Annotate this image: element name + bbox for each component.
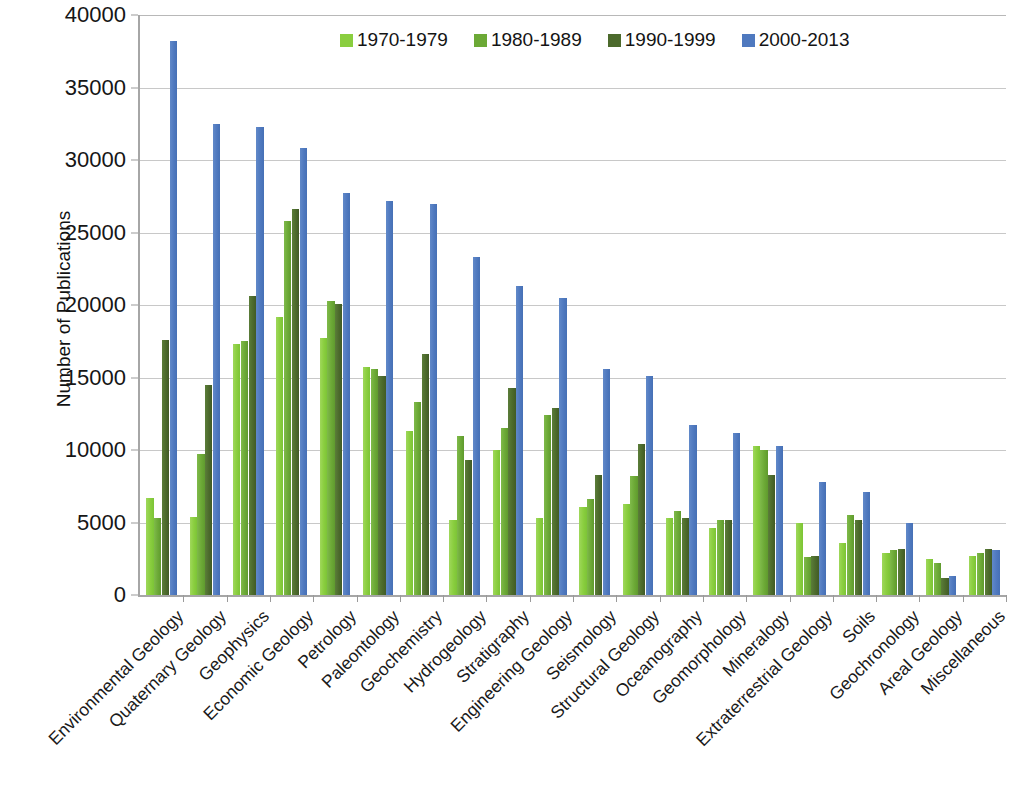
- bar[interactable]: [170, 41, 177, 595]
- bar[interactable]: [249, 296, 256, 595]
- bar[interactable]: [689, 425, 696, 595]
- bar[interactable]: [623, 504, 630, 595]
- bar[interactable]: [776, 446, 783, 595]
- bar[interactable]: [406, 431, 413, 595]
- bar[interactable]: [926, 559, 933, 595]
- bar[interactable]: [709, 528, 716, 595]
- bar[interactable]: [804, 557, 811, 595]
- legend-item[interactable]: 1970-1979: [340, 29, 448, 51]
- bar[interactable]: [544, 415, 551, 595]
- bar[interactable]: [847, 515, 854, 595]
- bar[interactable]: [733, 433, 740, 595]
- bar[interactable]: [213, 124, 220, 595]
- bar-group: [790, 15, 833, 595]
- bar[interactable]: [320, 338, 327, 595]
- bar[interactable]: [457, 436, 464, 596]
- legend-label: 2000-2013: [759, 29, 850, 51]
- bar[interactable]: [284, 221, 291, 595]
- legend-swatch-icon: [742, 34, 755, 47]
- bar[interactable]: [753, 446, 760, 595]
- bar[interactable]: [327, 301, 334, 595]
- bar-group: [530, 15, 573, 595]
- y-axis-tick-label: 25000: [65, 220, 126, 246]
- bar[interactable]: [595, 475, 602, 595]
- bar[interactable]: [985, 549, 992, 595]
- bar[interactable]: [256, 127, 263, 595]
- x-axis-category-labels: Environmental GeologyQuaternary GeologyG…: [138, 600, 1011, 786]
- bar[interactable]: [501, 428, 508, 595]
- bar[interactable]: [768, 475, 775, 595]
- bar[interactable]: [233, 344, 240, 595]
- bar-groups: [140, 15, 1006, 595]
- bar[interactable]: [796, 523, 803, 596]
- bar[interactable]: [674, 511, 681, 595]
- bar[interactable]: [552, 408, 559, 595]
- legend-item[interactable]: 1980-1989: [474, 29, 582, 51]
- legend-swatch-icon: [340, 34, 353, 47]
- bar[interactable]: [430, 204, 437, 596]
- bar[interactable]: [363, 367, 370, 595]
- bar[interactable]: [760, 450, 767, 595]
- bar[interactable]: [969, 556, 976, 595]
- bar[interactable]: [638, 444, 645, 595]
- bar[interactable]: [190, 517, 197, 595]
- bar[interactable]: [508, 388, 515, 595]
- bar[interactable]: [335, 304, 342, 595]
- bar-group: [616, 15, 659, 595]
- bar[interactable]: [839, 543, 846, 595]
- bar[interactable]: [949, 576, 956, 595]
- bar[interactable]: [855, 520, 862, 595]
- bar[interactable]: [559, 298, 566, 595]
- bar[interactable]: [154, 518, 161, 595]
- bar[interactable]: [603, 369, 610, 595]
- bar[interactable]: [725, 520, 732, 595]
- bar[interactable]: [906, 523, 913, 596]
- bar[interactable]: [241, 341, 248, 595]
- y-axis-tick-label: 40000: [65, 2, 126, 28]
- bar[interactable]: [276, 317, 283, 595]
- bar[interactable]: [422, 354, 429, 595]
- bar[interactable]: [630, 476, 637, 595]
- bar[interactable]: [292, 209, 299, 595]
- y-axis-tick-label: 30000: [65, 147, 126, 173]
- bar[interactable]: [819, 482, 826, 595]
- bar[interactable]: [811, 556, 818, 595]
- bar[interactable]: [717, 520, 724, 595]
- bar[interactable]: [992, 550, 999, 595]
- bar[interactable]: [646, 376, 653, 595]
- bar[interactable]: [863, 492, 870, 595]
- bar-group: [660, 15, 703, 595]
- bar[interactable]: [473, 257, 480, 595]
- y-axis-tick-label: 10000: [65, 437, 126, 463]
- bar[interactable]: [579, 507, 586, 595]
- bar[interactable]: [666, 518, 673, 595]
- bar[interactable]: [516, 286, 523, 595]
- legend-item[interactable]: 2000-2013: [742, 29, 850, 51]
- bar[interactable]: [300, 148, 307, 595]
- bar[interactable]: [146, 498, 153, 595]
- bar[interactable]: [371, 369, 378, 595]
- bar[interactable]: [934, 563, 941, 595]
- bar[interactable]: [493, 450, 500, 595]
- bar[interactable]: [898, 549, 905, 595]
- bar[interactable]: [465, 460, 472, 595]
- bar[interactable]: [343, 193, 350, 595]
- bar[interactable]: [587, 499, 594, 595]
- legend-item[interactable]: 1990-1999: [608, 29, 716, 51]
- bar[interactable]: [414, 402, 421, 595]
- bar[interactable]: [386, 201, 393, 595]
- bar[interactable]: [449, 520, 456, 595]
- bar[interactable]: [977, 553, 984, 595]
- bar[interactable]: [536, 518, 543, 595]
- bar[interactable]: [682, 518, 689, 595]
- legend-swatch-icon: [608, 34, 621, 47]
- bar[interactable]: [941, 578, 948, 595]
- bar[interactable]: [882, 553, 889, 595]
- bar-group: [140, 15, 183, 595]
- bar[interactable]: [890, 550, 897, 595]
- bar[interactable]: [162, 340, 169, 595]
- bar[interactable]: [205, 385, 212, 595]
- bar[interactable]: [378, 376, 385, 595]
- bar[interactable]: [197, 454, 204, 595]
- legend-swatch-icon: [474, 34, 487, 47]
